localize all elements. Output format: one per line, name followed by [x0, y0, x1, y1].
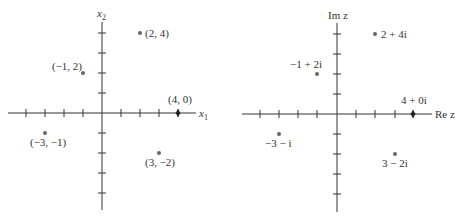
point-neg3-neg1	[43, 131, 47, 135]
x1-axis-label: x1	[198, 107, 208, 122]
point-label-neg1-2: (−1, 2)	[52, 60, 82, 73]
point-label-neg1-plus-2i: −1 + 2i	[290, 58, 322, 70]
point-4-plus-0i	[411, 110, 416, 118]
point-label-neg3-neg1: (−3, −1)	[30, 136, 67, 149]
point-2-plus-4i	[373, 32, 377, 36]
x2-axis-label: x2	[96, 7, 106, 22]
re-axis-label: Re z	[435, 108, 455, 120]
point-label-4-plus-0i: 4 + 0i	[401, 94, 427, 106]
point-3-minus-2i	[393, 152, 397, 156]
point-label-neg3-minus-i: −3 − i	[265, 137, 291, 149]
point-3-neg2	[157, 151, 161, 155]
im-axis-label: Im z	[328, 9, 348, 21]
point-label-2-plus-4i: 2 + 4i	[381, 28, 407, 40]
point-label-3-neg2: (3, −2)	[145, 156, 175, 169]
diagram-canvas: x2 x1 (2, 4) (−1, 2) (4, 0) (−3, −1) (3,…	[0, 0, 461, 220]
point-4-0	[176, 109, 181, 117]
left-plot: x2 x1 (2, 4) (−1, 2) (4, 0) (−3, −1) (3,…	[8, 7, 208, 210]
point-neg1-plus-2i	[315, 72, 319, 76]
point-neg3-minus-i	[277, 132, 281, 136]
point-label-4-0: (4, 0)	[168, 93, 192, 106]
point-2-4	[138, 31, 142, 35]
right-plot: Im z Re z 2 + 4i −1 + 2i 4 + 0i −3 − i 3…	[242, 9, 455, 212]
point-label-3-minus-2i: 3 − 2i	[382, 157, 408, 169]
point-label-2-4: (2, 4)	[145, 27, 169, 40]
